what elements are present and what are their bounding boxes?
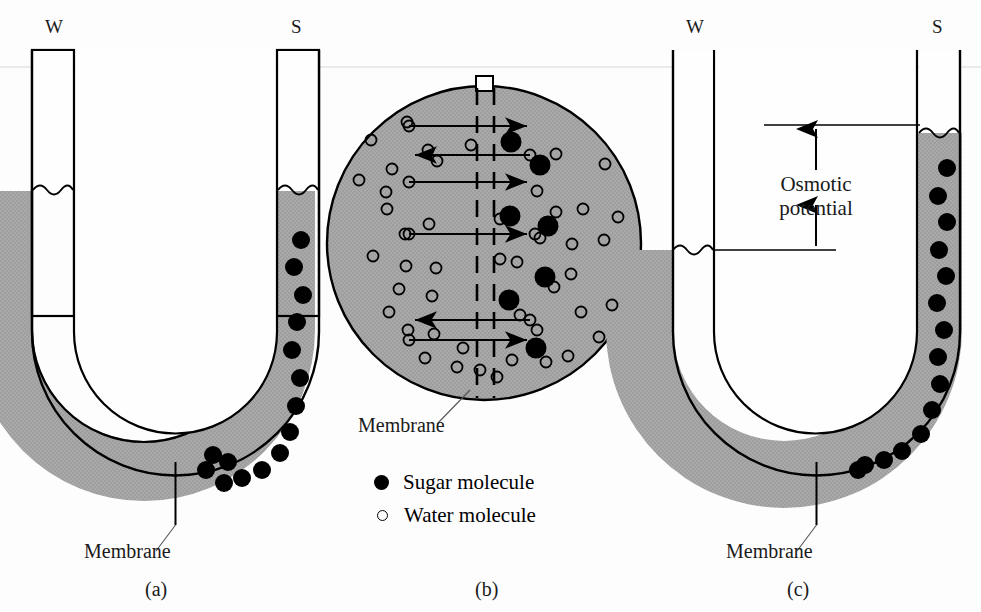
sugar-molecule (928, 294, 946, 312)
sugar-molecule (292, 231, 310, 249)
panel-b-circle (327, 86, 641, 400)
sugar-molecule (929, 348, 947, 366)
panel-c-membrane-label: Membrane (726, 540, 813, 562)
sugar-molecule (931, 375, 949, 393)
sugar-molecule (253, 461, 271, 479)
sugar-molecule (530, 155, 551, 176)
sugar-molecule (935, 321, 953, 339)
sugar-molecule (500, 206, 521, 227)
sugar-molecule (938, 213, 956, 231)
sugar-molecule (937, 267, 955, 285)
sugar-molecule-icon (374, 475, 389, 490)
sugar-molecule (233, 469, 251, 487)
sugar-molecule (287, 397, 305, 415)
sugar-molecule (929, 187, 947, 205)
panel-c-caption: (c) (787, 578, 809, 600)
osmotic-label-line1: Osmotic (744, 172, 888, 196)
sugar-molecule (281, 423, 299, 441)
sugar-molecule (285, 258, 303, 276)
sugar-molecule (271, 444, 289, 462)
water-molecule-icon (377, 510, 388, 521)
sugar-molecule (923, 401, 941, 419)
legend-label-sugar: Sugar molecule (403, 470, 534, 495)
osmosis-figure: W S W S Membrane (a) Membrane (b) Membra… (0, 0, 981, 612)
sugar-molecule (526, 338, 547, 359)
panel-b-membrane-label: Membrane (358, 414, 445, 436)
panel-a-membrane-label: Membrane (84, 540, 171, 562)
legend-item-water: Water molecule (374, 503, 536, 528)
panel-b-neck (476, 76, 493, 91)
sugar-molecule (893, 442, 911, 460)
sugar-molecule (215, 474, 233, 492)
legend-label-water: Water molecule (404, 503, 536, 528)
legend-item-sugar: Sugar molecule (374, 470, 534, 495)
osmotic-label-line2: potential (744, 196, 888, 220)
sugar-molecule (930, 241, 948, 259)
panel-a-right-tube-letter: S (291, 16, 302, 37)
sugar-molecule (938, 159, 956, 177)
sugar-molecule (501, 132, 522, 153)
sugar-molecule (849, 461, 867, 479)
panel-c-utube (606, 50, 962, 551)
sugar-molecule (499, 290, 520, 311)
sugar-molecule (912, 425, 930, 443)
panel-c-left-tube-letter: W (686, 16, 704, 37)
osmotic-potential-label: Osmotic potential (744, 172, 888, 220)
sugar-molecule (291, 369, 309, 387)
panel-a-left-tube-letter: W (45, 16, 63, 37)
sugar-molecule (875, 451, 893, 469)
sugar-molecule (219, 453, 237, 471)
sugar-molecule (294, 286, 312, 304)
sugar-molecule (538, 216, 559, 237)
panel-c-right-tube-letter: S (932, 16, 943, 37)
panel-a-caption: (a) (145, 578, 167, 600)
panel-b-caption: (b) (475, 578, 498, 600)
panel-a-utube (0, 50, 319, 551)
sugar-molecule (288, 313, 306, 331)
sugar-molecule (535, 267, 556, 288)
sugar-molecule (283, 341, 301, 359)
